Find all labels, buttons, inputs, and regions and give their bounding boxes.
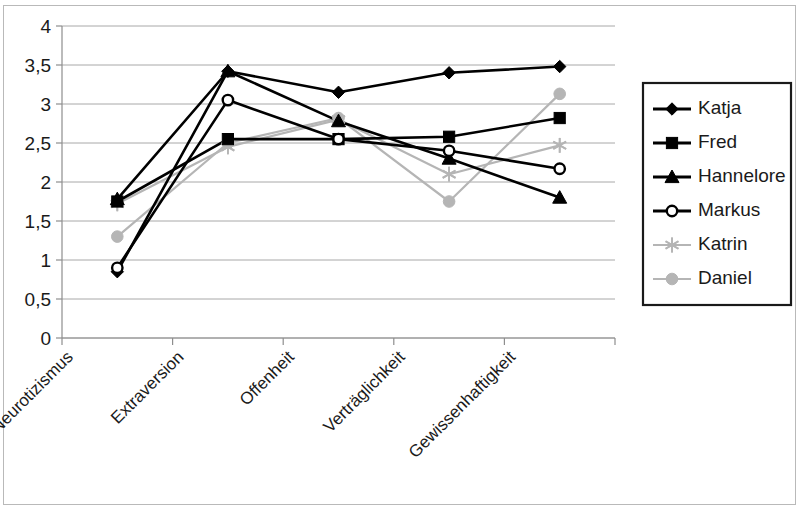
y-tick-labels-group: 00,511,522,533,54 xyxy=(25,16,52,349)
data-point-daniel-4 xyxy=(554,88,566,100)
y-axis-tick-label: 0,5 xyxy=(25,289,51,310)
data-point-markus-0 xyxy=(112,263,122,273)
chart-canvas: 00,511,522,533,54 NeurotizismusExtravers… xyxy=(0,0,802,512)
y-axis-tick-label: 0 xyxy=(40,328,51,349)
data-point-daniel-0 xyxy=(112,231,124,243)
y-axis-tick-label: 1 xyxy=(40,250,51,271)
legend-label-markus: Markus xyxy=(698,199,760,220)
legend-label-hannelore: Hannelore xyxy=(698,165,786,186)
x-axis-tick-label: Neurotizismus xyxy=(0,347,77,437)
x-axis-tick-label: Offenheit xyxy=(236,347,298,409)
x-axis-tick-label: Verträglichkeit xyxy=(320,347,409,436)
data-point-markus-3 xyxy=(444,146,454,156)
y-axis-tick-label: 4 xyxy=(40,16,51,37)
y-axis-tick-label: 3,5 xyxy=(25,55,51,76)
data-point-markus-4 xyxy=(555,164,565,174)
y-axis-tick-label: 2,5 xyxy=(25,133,51,154)
data-point-markus-2 xyxy=(333,134,343,144)
legend-label-daniel: Daniel xyxy=(698,267,752,288)
data-point-katja-4 xyxy=(554,60,566,72)
y-axis-tick-label: 1,5 xyxy=(25,211,51,232)
data-point-katrin-3 xyxy=(443,167,456,182)
x-axis-tick-label: Extraversion xyxy=(107,347,187,427)
line-chart: 00,511,522,533,54 NeurotizismusExtravers… xyxy=(0,0,802,512)
data-point-markus-1 xyxy=(223,95,233,105)
data-point-katja-3 xyxy=(443,67,455,79)
data-point-fred-4 xyxy=(554,112,565,123)
legend-marker-fred xyxy=(666,137,677,148)
data-point-daniel-3 xyxy=(443,196,455,208)
data-point-katja-2 xyxy=(332,86,344,98)
y-axis-tick-label: 3 xyxy=(40,94,51,115)
series-line-katrin xyxy=(117,120,559,204)
data-point-fred-3 xyxy=(444,131,455,142)
legend-label-katrin: Katrin xyxy=(698,233,748,254)
y-tick-marks-group xyxy=(56,26,62,338)
legend-marker-daniel xyxy=(666,273,678,285)
legend-label-fred: Fred xyxy=(698,131,737,152)
y-axis-tick-label: 2 xyxy=(40,172,51,193)
x-tick-marks-group xyxy=(62,338,615,345)
gridlines-group xyxy=(62,26,615,338)
data-point-katrin-4 xyxy=(553,138,566,153)
x-axis-tick-label: Gewissenhaftigkeit xyxy=(405,347,520,462)
legend-marker-markus xyxy=(667,206,677,216)
chart-legend[interactable]: KatjaFredHanneloreMarkusKatrinDaniel xyxy=(643,83,791,305)
x-tick-labels-group: NeurotizismusExtraversionOffenheitVerträ… xyxy=(0,347,519,462)
series-markers-group xyxy=(110,60,566,278)
data-point-fred-1 xyxy=(222,134,233,145)
legend-label-katja: Katja xyxy=(698,97,742,118)
